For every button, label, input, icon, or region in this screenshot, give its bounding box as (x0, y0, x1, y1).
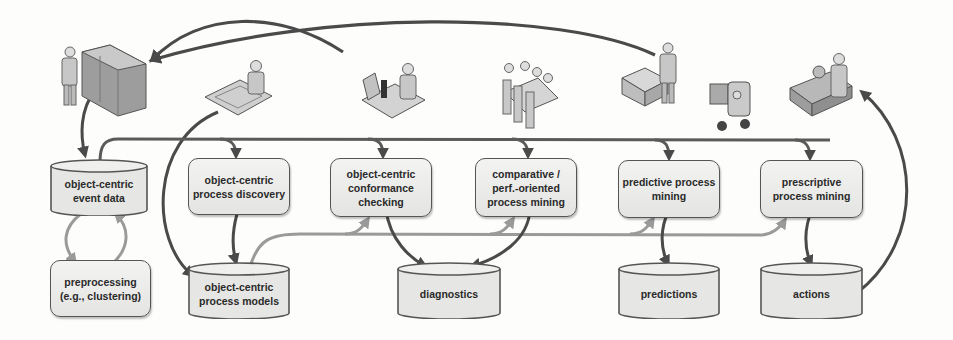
node-prescriptive: prescriptiveprocess mining (760, 160, 863, 218)
node-actions: actions (760, 261, 863, 319)
node-predictive: predictive processmining (618, 160, 720, 218)
person-with-blueprint-icon (205, 61, 272, 116)
node-label: prescriptiveprocess mining (773, 175, 851, 203)
arrow-top-feedback (152, 22, 655, 60)
arrow-bus-to-discovery (220, 139, 236, 156)
meeting-table-people-icon (503, 62, 558, 129)
arrow-actions-to-operator (857, 92, 907, 293)
node-label: preprocessing(e.g., clustering) (60, 275, 141, 303)
node-preprocessing: preprocessing(e.g., clustering) (50, 260, 151, 317)
node-event-data: object-centricevent data (50, 158, 148, 216)
node-comparative: comparative /perf.-orientedprocess minin… (475, 158, 577, 217)
arrow-models-to-conformance (345, 219, 368, 234)
node-label: object-centricconformancechecking (347, 167, 416, 209)
node-label: predictions (641, 279, 698, 301)
node-label: comparative /perf.-orientedprocess minin… (487, 167, 565, 209)
forklift-icon (710, 82, 750, 131)
arrow-predictive-to-predictions (662, 210, 669, 264)
node-label: object-centricevent data (65, 169, 134, 205)
arrow-bus-to-predictive (655, 140, 669, 158)
arrow-models-to-prescriptive (760, 220, 785, 235)
node-conformance: object-centricconformancechecking (330, 158, 432, 217)
arrow-prescriptive-to-actions (806, 210, 812, 264)
node-label: predictive processmining (623, 175, 716, 203)
arrow-comparative-to-diagnostics (472, 210, 530, 266)
arrow-discovery-to-models (233, 214, 237, 262)
arrow-bus-to-conformance (368, 139, 383, 156)
person-at-machine-icon (790, 54, 852, 117)
arrow-eventdata-to-preprocessing (66, 213, 82, 262)
person-with-server-rack-icon (62, 45, 146, 116)
node-label: object-centricprocess discovery (193, 173, 285, 201)
arrow-models-to-comparative (490, 219, 513, 234)
node-label: actions (793, 279, 830, 301)
person-with-microscope-icon (362, 64, 425, 119)
node-predictions: predictions (618, 261, 720, 319)
node-discovery: object-centricprocess discovery (188, 158, 290, 215)
node-label: object-centricprocess models (199, 272, 279, 308)
arrow-bus-to-prescriptive (795, 140, 810, 158)
arrow-bus-to-comparative (512, 139, 528, 156)
node-label: diagnostics (420, 279, 478, 301)
arrow-conformance-to-diagnostics (386, 210, 425, 266)
arrow-models-to-predictive (630, 219, 653, 234)
node-process-models: object-centricprocess models (188, 261, 290, 319)
arrow-preprocessing-to-eventdata (112, 214, 126, 264)
node-diagnostics: diagnostics (397, 261, 501, 319)
